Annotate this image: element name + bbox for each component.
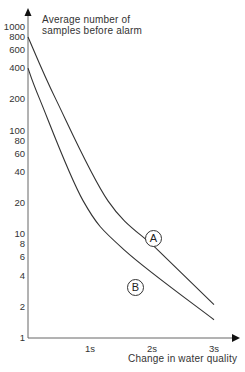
y-tick-label: 400 [0,63,25,73]
y-tick-label: 600 [0,45,25,55]
y-tick-label: 40 [0,167,25,177]
y-axis-label-line-1: Average number of [42,14,142,25]
y-tick-label: 20 [0,198,25,208]
x-axis [28,334,240,342]
curve-b [28,68,214,320]
curve-a [28,37,214,305]
y-tick-label: 2 [0,302,25,312]
y-axis [25,8,32,338]
y-tick-label: 200 [0,94,25,104]
x-axis-arrow-icon [232,334,240,342]
x-tick-label: 1s [85,344,95,354]
y-tick-label: 1 [0,333,25,343]
y-tick-label: 6 [0,252,25,262]
x-axis-label: Change in water quality [128,353,237,364]
curve-b-label: B [127,279,144,296]
y-axis-label-line-2: samples before alarm [42,25,142,36]
y-tick-label: 60 [0,149,25,159]
y-tick-label: 4 [0,271,25,281]
y-tick-label: 8 [0,239,25,249]
y-tick-label: 80 [0,136,25,146]
chart-canvas [0,0,245,372]
y-tick-label: 800 [0,32,25,42]
curve-a-label: A [145,230,162,247]
y-axis-label: Average number of samples before alarm [42,14,142,36]
y-axis-arrow-icon [25,8,32,16]
